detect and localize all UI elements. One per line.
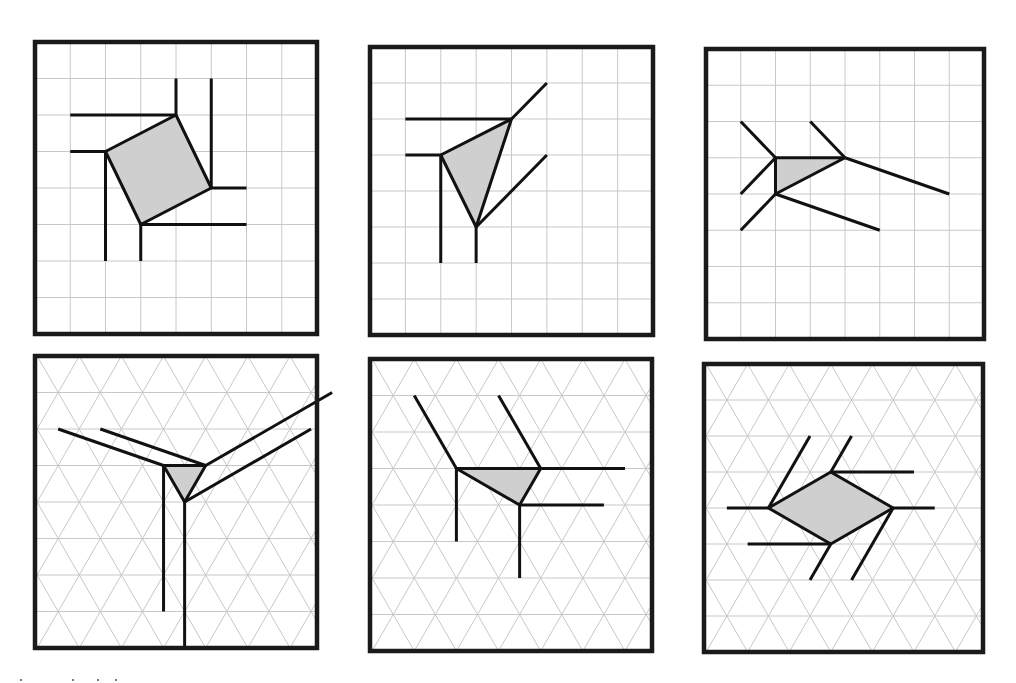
ray [845, 158, 949, 194]
grid-line [1004, 359, 1016, 651]
panel-6-svg [702, 362, 985, 654]
shaded-polygon [164, 466, 206, 503]
panel-4-svg [33, 354, 319, 650]
panel-triangular-rhombus [702, 362, 985, 654]
ray [741, 194, 776, 230]
ray [776, 194, 880, 230]
ray [58, 429, 163, 466]
grid-line [997, 364, 1016, 652]
shaded-polygon [456, 469, 540, 506]
grid-lines [706, 49, 984, 339]
grid-line [0, 356, 37, 648]
panel-5-svg [368, 357, 654, 653]
panel-triangular-small-triangle [33, 354, 319, 650]
grid-line [0, 359, 35, 651]
shaded-polygon [106, 115, 212, 225]
grid-line [1004, 359, 1016, 651]
ray [512, 83, 547, 119]
panel-triangular-triangle [368, 357, 654, 653]
cropped-caption-fragment [0, 677, 220, 683]
panel-square-triangle [368, 45, 655, 337]
ray [100, 429, 205, 466]
grid-line [0, 356, 37, 648]
ray [741, 122, 776, 158]
ray [741, 158, 776, 194]
grid-line [1006, 356, 1016, 648]
shaded-polygon [768, 472, 893, 544]
panel-square-small-triangle [704, 47, 986, 341]
panel-3-svg [704, 47, 986, 341]
grid-line [997, 364, 1016, 652]
ray [810, 122, 845, 158]
panel-1-svg [33, 40, 319, 336]
grid-line [0, 359, 35, 651]
panel-2-svg [368, 45, 655, 337]
grid-line [1006, 356, 1016, 648]
panel-square-quadrilateral [33, 40, 319, 336]
